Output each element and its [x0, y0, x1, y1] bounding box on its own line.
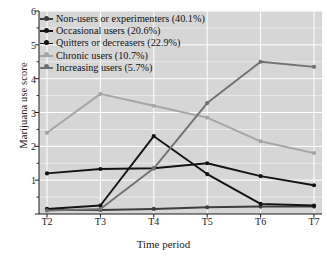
data-point — [98, 92, 102, 96]
data-point — [259, 202, 263, 206]
data-point — [45, 131, 49, 135]
x-tick-label: T2 — [41, 216, 52, 227]
legend-item: Occasional users (20.6%) — [40, 25, 240, 37]
legend-item: Increasing users (5.7%) — [40, 62, 240, 74]
data-point — [45, 209, 49, 213]
data-point — [152, 134, 156, 138]
legend-label: Increasing users (5.7%) — [56, 62, 152, 74]
legend-marker-icon — [40, 26, 53, 36]
chart-legend: Non-users or experimenters (40.1%)Occasi… — [40, 13, 240, 74]
x-axis-tick-labels: T2T3T4T5T6T7 — [0, 216, 327, 232]
data-point — [152, 166, 156, 170]
x-tick-label: T6 — [255, 216, 266, 227]
legend-label: Non-users or experimenters (40.1%) — [56, 13, 205, 25]
data-point — [45, 171, 49, 175]
data-point — [312, 183, 316, 187]
x-tick-label: T4 — [148, 216, 159, 227]
legend-label: Chronic users (10.7%) — [56, 50, 148, 62]
data-point — [152, 104, 156, 108]
legend-marker-icon — [40, 14, 53, 24]
data-point — [259, 174, 263, 178]
x-tick-label: T5 — [202, 216, 213, 227]
data-point — [312, 65, 316, 69]
data-point — [98, 167, 102, 171]
x-axis-title: Time period — [0, 238, 327, 250]
legend-marker-icon — [40, 51, 53, 61]
data-point — [259, 139, 263, 143]
data-point — [205, 161, 209, 165]
data-point — [259, 60, 263, 64]
data-point — [98, 207, 102, 211]
legend-item: Chronic users (10.7%) — [40, 50, 240, 62]
legend-label: Occasional users (20.6%) — [56, 25, 160, 37]
legend-item: Quitters or decreasers (22.9%) — [40, 37, 240, 49]
data-point — [205, 172, 209, 176]
legend-item: Non-users or experimenters (40.1%) — [40, 13, 240, 25]
data-point — [312, 151, 316, 155]
x-tick-label: T7 — [308, 216, 319, 227]
data-point — [205, 115, 209, 119]
data-point — [152, 207, 156, 211]
x-tick-label: T3 — [95, 216, 106, 227]
data-point — [312, 203, 316, 207]
data-point — [205, 101, 209, 105]
legend-marker-icon — [40, 63, 53, 73]
chart-figure: Marijuana use score 123456 T2T3T4T5T6T7 … — [0, 0, 327, 260]
legend-label: Quitters or decreasers (22.9%) — [56, 37, 180, 49]
data-point — [205, 205, 209, 209]
legend-marker-icon — [40, 38, 53, 48]
